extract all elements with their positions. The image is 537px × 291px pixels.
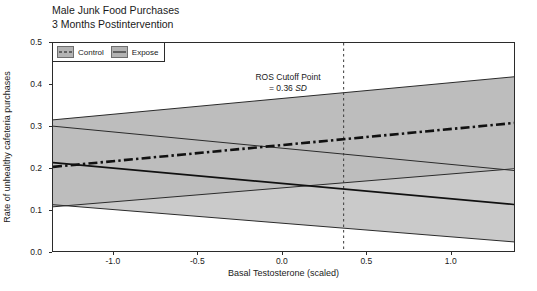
ros-cutoff-unit: SD (295, 83, 307, 93)
ros-cutoff-annotation: ROS Cutoff Point = 0.36 SD (236, 72, 340, 94)
x-tick-label: -1.0 (93, 257, 133, 266)
chart-figure: Male Junk Food Purchases 3 Months Postin… (0, 0, 537, 291)
y-tick-label: 0.0 (8, 248, 42, 257)
dash-dot-key-icon (57, 46, 74, 58)
x-axis-label: Basal Testosterone (scaled) (52, 268, 515, 278)
y-tick-mark (49, 252, 52, 253)
x-tick-label: -0.5 (177, 257, 217, 266)
solid-line-key-icon (111, 46, 128, 58)
x-tick-label: 0.0 (262, 257, 302, 266)
ros-cutoff-line2: = 0.36 SD (236, 83, 340, 94)
y-tick-label: 0.1 (8, 206, 42, 215)
chart-subtitle: 3 Months Postintervention (52, 18, 432, 32)
legend-label-control: Control (78, 48, 104, 57)
y-tick-label: 0.3 (8, 122, 42, 131)
y-axis-label: Rate of unhealthy cafeteria purchases (0, 42, 14, 252)
x-tick-mark (113, 252, 114, 255)
legend-entry-expose[interactable]: Expose (111, 46, 159, 58)
chart-title: Male Junk Food Purchases (52, 4, 432, 18)
ros-cutoff-value: = 0.36 (269, 83, 295, 93)
x-tick-mark (282, 252, 283, 255)
x-tick-mark (197, 252, 198, 255)
x-tick-mark (366, 252, 367, 255)
legend-label-expose: Expose (132, 48, 159, 57)
x-tick-mark (451, 252, 452, 255)
legend-entry-control[interactable]: Control (57, 46, 104, 58)
chart-title-block: Male Junk Food Purchases 3 Months Postin… (52, 4, 432, 31)
x-tick-label: 1.0 (431, 257, 471, 266)
y-tick-label: 0.5 (8, 38, 42, 47)
chart-legend[interactable]: Control Expose (52, 42, 165, 62)
y-tick-label: 0.4 (8, 80, 42, 89)
y-tick-label: 0.2 (8, 164, 42, 173)
x-tick-label: 0.5 (346, 257, 386, 266)
ros-cutoff-line1: ROS Cutoff Point (236, 72, 340, 83)
